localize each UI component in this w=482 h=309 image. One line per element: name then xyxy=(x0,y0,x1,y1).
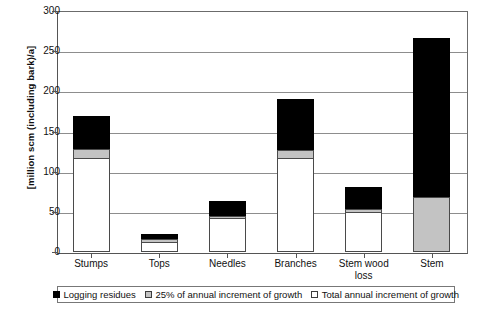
bar-segment xyxy=(141,242,178,252)
bar-segment xyxy=(413,197,450,252)
x-tick-label: Needles xyxy=(193,258,261,270)
legend-label: Total annual increment of growth xyxy=(322,289,459,300)
bar-segment xyxy=(73,158,110,252)
black-swatch-icon xyxy=(53,291,60,298)
x-tick-label: Branches xyxy=(262,258,330,270)
x-tick-label: Tops xyxy=(125,258,193,270)
x-tick-label: Stem xyxy=(398,258,466,270)
white-swatch-icon xyxy=(311,291,318,298)
legend-label: 25% of annual increment of growth xyxy=(155,289,302,300)
bar-group xyxy=(345,11,382,252)
chart-legend: Logging residues25% of annual increment … xyxy=(57,286,455,303)
bar-chart: [million scm (including bark)/a] 0501001… xyxy=(0,0,482,309)
bar-group xyxy=(73,11,110,252)
gray-swatch-icon xyxy=(145,291,152,298)
bar-group xyxy=(413,11,450,252)
legend-label: Logging residues xyxy=(64,289,136,300)
x-tick-label: Stem wood loss xyxy=(330,258,398,281)
bar-segment xyxy=(209,218,246,252)
bar-segment xyxy=(345,212,382,252)
legend-item: 25% of annual increment of growth xyxy=(145,289,302,300)
bar-group xyxy=(277,11,314,252)
x-tick-label: Stumps xyxy=(57,258,125,270)
legend-item: Logging residues xyxy=(53,289,136,300)
y-tick-mark xyxy=(52,252,57,253)
bars-layer xyxy=(57,11,466,252)
bar-group xyxy=(209,11,246,252)
legend-item: Total annual increment of growth xyxy=(311,289,459,300)
bar-group xyxy=(141,11,178,252)
bar-segment xyxy=(277,158,314,252)
